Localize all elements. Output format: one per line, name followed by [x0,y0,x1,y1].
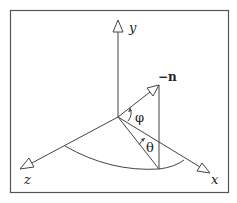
diagram-frame [11,11,229,193]
x-label: x [211,172,219,187]
n-vector-label: −n [158,70,177,84]
z-arrowhead-icon [20,158,34,169]
ground-arc [65,146,184,169]
coordinate-diagram: y z x −n φ θ [0,0,237,203]
z-label: z [23,172,31,187]
y-arrowhead-icon [113,20,123,32]
z-axis [20,117,118,169]
y-axis [113,20,123,117]
y-label: y [128,20,137,35]
x-arrowhead-icon [197,163,210,173]
x-axis [118,117,210,173]
phi-label: φ [135,110,144,125]
theta-label: θ [146,140,154,155]
n-arrowhead-icon [147,85,159,96]
